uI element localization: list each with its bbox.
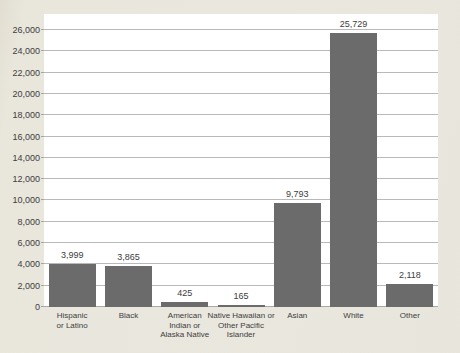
category-label-line: Indian or [160, 321, 209, 331]
category-label: Native Hawaiian orOther PacificIslander [207, 311, 274, 340]
bar-value-label: 25,729 [340, 19, 368, 29]
category-label-line: Other [400, 311, 420, 321]
plot-area: 3,9993,8654251659,79325,7292,118 [44, 14, 438, 307]
bar-chart-figure: 02,0004,0006,0008,00010,00012,00014,0001… [0, 0, 460, 353]
bar-value-label: 425 [177, 288, 192, 298]
y-tick-label: 8,000 [0, 217, 40, 227]
gridline [44, 157, 438, 158]
category-label-line: Islander [207, 330, 274, 340]
y-tick-mark [41, 242, 44, 243]
bar-other [386, 284, 433, 307]
y-tick-mark [41, 136, 44, 137]
category-label-line: Native Hawaiian or [207, 311, 274, 321]
y-tick-label: 0 [0, 302, 40, 312]
bar-native-hawaiian-or-other-pacific-islander [218, 305, 265, 307]
y-tick-mark [41, 263, 44, 264]
y-tick-mark [41, 199, 44, 200]
gridline [44, 221, 438, 222]
y-tick-mark [41, 285, 44, 286]
gridline [44, 242, 438, 243]
category-label: Hispanicor Latino [57, 311, 88, 330]
y-axis: 02,0004,0006,0008,00010,00012,00014,0001… [0, 14, 40, 307]
bar-value-label: 165 [233, 291, 248, 301]
gridline [44, 178, 438, 179]
y-tick-label: 4,000 [0, 259, 40, 269]
bar-black [105, 266, 152, 307]
y-tick-label: 10,000 [0, 195, 40, 205]
bar-value-label: 2,118 [399, 270, 421, 280]
category-label-line: Black [119, 311, 139, 321]
y-tick-mark [41, 72, 44, 73]
y-tick-mark [41, 178, 44, 179]
category-label: Asian [287, 311, 307, 321]
gridline [44, 93, 438, 94]
y-tick-mark [41, 157, 44, 158]
y-tick-mark [41, 93, 44, 94]
category-label: Other [400, 311, 420, 321]
y-tick-label: 6,000 [0, 238, 40, 248]
y-tick-label: 2,000 [0, 281, 40, 291]
gridline [44, 136, 438, 137]
x-axis: Hispanicor LatinoBlackAmericanIndian orA… [44, 311, 438, 351]
gridline [44, 72, 438, 73]
y-tick-label: 24,000 [0, 46, 40, 56]
y-tick-mark [41, 29, 44, 30]
category-label: White [343, 311, 363, 321]
category-label-line: American [160, 311, 209, 321]
bar-white [330, 33, 377, 307]
bar-value-label: 3,999 [61, 250, 84, 260]
y-tick-label: 22,000 [0, 68, 40, 78]
y-tick-label: 14,000 [0, 153, 40, 163]
y-tick-mark [41, 114, 44, 115]
category-label: Black [119, 311, 139, 321]
bar-hispanic-or-latino [49, 264, 96, 307]
category-label-line: or Latino [57, 321, 88, 331]
bar-value-label: 9,793 [286, 189, 309, 199]
gridline [44, 199, 438, 200]
gridline [44, 29, 438, 30]
y-tick-label: 12,000 [0, 174, 40, 184]
y-tick-mark [41, 221, 44, 222]
gridline [44, 50, 438, 51]
gridline [44, 285, 438, 286]
gridline [44, 263, 438, 264]
category-label-line: Other Pacific [207, 321, 274, 331]
y-tick-mark [41, 306, 44, 307]
category-label-line: White [343, 311, 363, 321]
category-label-line: Alaska Native [160, 330, 209, 340]
bar-value-label: 3,865 [117, 252, 140, 262]
category-label: AmericanIndian orAlaska Native [160, 311, 209, 340]
bar-american-indian-or-alaska-native [161, 302, 208, 307]
category-label-line: Asian [287, 311, 307, 321]
y-tick-mark [41, 50, 44, 51]
y-tick-label: 20,000 [0, 89, 40, 99]
y-tick-label: 16,000 [0, 132, 40, 142]
y-tick-label: 26,000 [0, 25, 40, 35]
y-tick-label: 18,000 [0, 110, 40, 120]
gridline [44, 114, 438, 115]
category-label-line: Hispanic [57, 311, 88, 321]
bar-asian [274, 203, 321, 307]
